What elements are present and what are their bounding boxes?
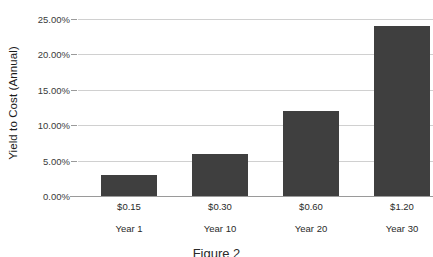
bar (283, 111, 339, 196)
bar (374, 26, 430, 196)
bar (101, 175, 157, 196)
x-axis-value-label: $1.20 (374, 201, 430, 212)
y-axis-tick-label: 0.00% (26, 191, 70, 202)
x-axis-value-label: $0.15 (101, 201, 157, 212)
x-axis-period-label: Year 30 (374, 223, 430, 234)
y-axis-tick-mark (71, 161, 77, 162)
y-axis-tick-mark (71, 196, 77, 197)
y-axis-tick-label: 15.00% (26, 84, 70, 95)
x-axis-period-label: Year 10 (192, 223, 248, 234)
y-axis-tick-mark (71, 90, 77, 91)
y-axis-tick-label: 5.00% (26, 155, 70, 166)
x-axis-period-label: Year 1 (101, 223, 157, 234)
gridline (78, 19, 433, 20)
y-axis-tick-label: 25.00% (26, 14, 70, 25)
x-axis-value-label: $0.30 (192, 201, 248, 212)
plot-area: 0.00%5.00%10.00%15.00%20.00%25.00% $0.15… (0, 0, 433, 257)
x-axis-period-label: Year 20 (283, 223, 339, 234)
axis-baseline (70, 196, 433, 197)
x-axis-value-label: $0.60 (283, 201, 339, 212)
figure-caption: Figure 2 (0, 246, 433, 257)
y-axis-tick-label: 20.00% (26, 49, 70, 60)
bar (192, 154, 248, 196)
y-axis-tick-mark (71, 54, 77, 55)
y-axis-tick-label: 10.00% (26, 120, 70, 131)
figure-container: Yield to Cost (Annual) 0.00%5.00%10.00%1… (0, 0, 433, 257)
y-axis-tick-mark (71, 19, 77, 20)
y-axis-tick-mark (71, 125, 77, 126)
y-axis-tick-labels: 0.00%5.00%10.00%15.00%20.00%25.00% (26, 0, 70, 257)
